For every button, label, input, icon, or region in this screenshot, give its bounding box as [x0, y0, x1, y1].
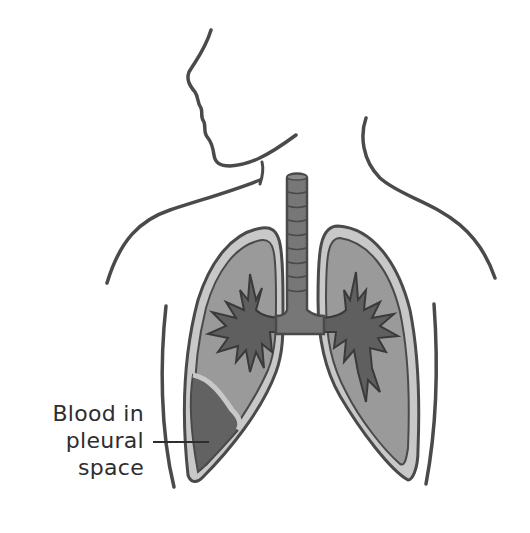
right-lung [316, 226, 419, 480]
annotation-line-2: pleural [20, 427, 144, 454]
annotation-line-1: Blood in [20, 400, 144, 427]
annotation-label: Blood in pleural space [20, 400, 144, 481]
annotation-line-3: space [20, 454, 144, 481]
face-profile-outline [188, 30, 296, 166]
right-body-side-line [426, 304, 436, 484]
left-lung [184, 228, 284, 482]
left-body-side-line [162, 306, 174, 487]
